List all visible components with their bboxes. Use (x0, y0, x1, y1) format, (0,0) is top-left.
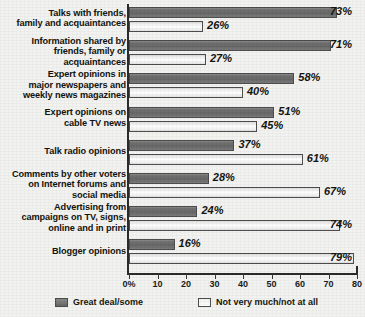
bar-group: Expert opinions oncable TV news51%45% (0, 107, 365, 140)
bar-value-label: 26% (207, 19, 229, 31)
bar-great-deal-some (129, 173, 209, 184)
bar-not-very-much (129, 87, 243, 98)
bar-value-label: 79% (330, 251, 352, 263)
legend-label: Not very much/not at all (216, 297, 318, 307)
bar-great-deal-some (129, 239, 175, 250)
bar-not-very-much (129, 21, 203, 32)
bar-group: Advertising fromcampaigns on TV, signs,o… (0, 206, 365, 239)
category-label: Advertising fromcampaigns on TV, signs,o… (1, 202, 126, 234)
bar-value-label: 28% (213, 171, 235, 183)
bar-value-label: 51% (278, 105, 300, 117)
bar-not-very-much (129, 154, 303, 165)
bar-value-label: 74% (330, 218, 352, 230)
x-tick-label: 80 (352, 279, 362, 289)
category-label: Talks with friends,family and acquaintan… (1, 8, 126, 29)
bar-not-very-much (129, 54, 206, 65)
bar-value-label: 40% (247, 85, 269, 97)
bar-value-label: 67% (324, 185, 346, 197)
bar-value-label: 45% (261, 119, 283, 131)
x-tick-label: 50 (266, 279, 276, 289)
category-label: Comments by other voterson Internet foru… (1, 169, 126, 201)
category-label: Blogger opinions (1, 246, 126, 257)
bar-value-label: 37% (238, 138, 260, 150)
x-tick-label: 70 (323, 279, 333, 289)
category-label: Information shared byfriends, family ora… (1, 36, 126, 68)
legend-item-great-deal-some: Great deal/some (55, 297, 143, 307)
legend-item-not-very-much: Not very much/not at all (198, 297, 318, 307)
category-label: Expert opinions inmajor newspapers andwe… (1, 69, 126, 101)
bar-value-label: 16% (179, 237, 201, 249)
legend-swatch-light-icon (198, 298, 211, 307)
bar-great-deal-some (129, 7, 337, 18)
bar-not-very-much (129, 121, 257, 132)
bar-great-deal-some (129, 206, 197, 217)
x-tick-label: 40 (238, 279, 248, 289)
bar-chart: 0%1020304050607080 Talks with friends,fa… (0, 0, 365, 317)
bar-value-label: 27% (210, 52, 232, 64)
bar-great-deal-some (129, 40, 331, 51)
bar-value-label: 73% (330, 5, 352, 17)
x-tick-label: 60 (295, 279, 305, 289)
bar-not-very-much (129, 253, 354, 264)
x-tick-label: 30 (209, 279, 219, 289)
bar-value-label: 24% (201, 204, 223, 216)
bar-value-label: 58% (298, 71, 320, 83)
bar-not-very-much (129, 220, 340, 231)
x-tick-label: 10 (152, 279, 162, 289)
x-tick-label: 20 (181, 279, 191, 289)
category-label: Talk radio opinions (1, 146, 126, 157)
bar-great-deal-some (129, 140, 234, 151)
x-tick-label: 0% (122, 279, 135, 289)
bar-value-label: 71% (330, 38, 352, 50)
legend-label: Great deal/some (73, 297, 143, 307)
bar-group: Blogger opinions16%79% (0, 239, 365, 272)
bar-great-deal-some (129, 73, 294, 84)
legend-swatch-dark-icon (55, 298, 68, 307)
category-label: Expert opinions oncable TV news (1, 107, 126, 128)
chart-legend: Great deal/some Not very much/not at all (0, 297, 365, 311)
bar-not-very-much (129, 187, 320, 198)
bar-group: Expert opinions inmajor newspapers andwe… (0, 73, 365, 106)
bar-value-label: 61% (307, 152, 329, 164)
bar-great-deal-some (129, 107, 274, 118)
